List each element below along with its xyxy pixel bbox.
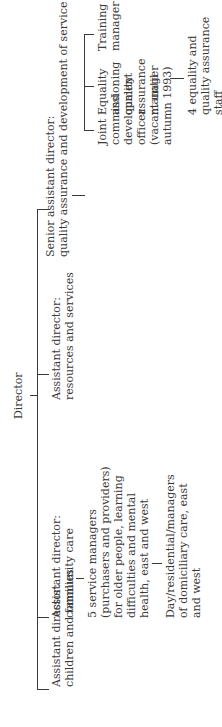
connector-joint-commissioning: [84, 130, 94, 131]
node-community-care: Assistant director: community care: [50, 515, 76, 618]
org-chart: Director Assistant director: children an…: [0, 0, 222, 727]
connector-children-families: [37, 689, 49, 690]
connector-qa-staff: [170, 78, 184, 79]
connector-day-residential: [152, 563, 162, 564]
node-day-residential: Day/residential/managers of domiciliary …: [164, 474, 203, 618]
node-senior-qa: Senior assistant director: quality assur…: [44, 2, 70, 257]
connector-senior-qa-down: [72, 195, 85, 196]
node-training-manager: Training manager: [96, 2, 122, 51]
connector-resources-services: [37, 374, 49, 375]
node-director: Director: [12, 372, 25, 419]
node-service-managers: 5 service managers (purchasers and provi…: [86, 466, 151, 618]
connector-training-manager: [84, 34, 94, 35]
node-resources-services: Assistant director: resources and servic…: [50, 272, 76, 400]
node-equality-manager: Equality and quality assurance manager: [96, 58, 161, 115]
connector-qa-sub-bar: [84, 35, 85, 131]
connector-service-managers: [76, 578, 84, 579]
connector-child-protection: [84, 124, 85, 125]
node-qa-staff: 4 equality and quality assurance staff: [186, 0, 222, 115]
connector-community-care: [37, 617, 49, 618]
connector-equality-manager: [84, 86, 94, 87]
connector-child-protection-tick: [84, 123, 85, 124]
